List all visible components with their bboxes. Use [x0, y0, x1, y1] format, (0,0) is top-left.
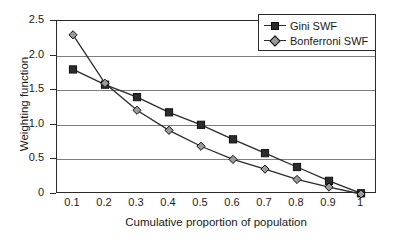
data-point-diamond: [101, 79, 109, 87]
x-axis-tick-label: 0.3: [128, 196, 143, 208]
x-axis-title: Cumulative proportion of population: [56, 216, 376, 228]
legend-label-gini: Gini SWF: [290, 20, 337, 32]
data-point-diamond: [165, 126, 173, 134]
x-axis-tick-label: 0.9: [320, 196, 335, 208]
data-point-diamond: [261, 165, 269, 173]
legend-entry-gini: Gini SWF: [264, 18, 375, 33]
legend-entry-bonferroni: Bonferroni SWF: [264, 33, 375, 48]
data-point-diamond: [197, 142, 205, 150]
data-point-diamond: [293, 175, 301, 183]
diamond-marker-icon: [269, 35, 280, 46]
chart-figure: 00.51.01.52.02.5 Weighting function 0.10…: [0, 0, 395, 244]
x-axis-tick-label: 0.5: [192, 196, 207, 208]
y-axis-tick-mark: [50, 193, 56, 194]
series-line-bonferroni: [73, 35, 361, 194]
data-point-square: [133, 94, 140, 101]
x-axis-tick-label: 0.4: [160, 196, 175, 208]
x-axis-tick-label: 0.8: [288, 196, 303, 208]
gridline: [57, 159, 375, 160]
gridline: [57, 125, 375, 126]
data-point-diamond: [133, 106, 141, 114]
data-point-square: [69, 66, 76, 73]
data-point-square: [229, 136, 236, 143]
x-axis-tick-label: 0.2: [96, 196, 111, 208]
y-axis-title: Weighting function: [18, 14, 30, 194]
data-point-diamond: [69, 31, 77, 39]
data-point-square: [261, 150, 268, 157]
legend-key-diamond: [264, 35, 286, 47]
data-point-diamond: [325, 183, 333, 191]
square-marker-icon: [271, 22, 279, 30]
x-axis-tick-labels: 0.10.20.30.40.50.60.70.80.91: [0, 196, 395, 212]
series-line-gini: [73, 69, 361, 193]
gridline: [57, 90, 375, 91]
legend-label-bonferroni: Bonferroni SWF: [290, 35, 368, 47]
data-point-square: [101, 81, 108, 88]
legend-key-square: [264, 20, 286, 32]
chart-legend: Gini SWF Bonferroni SWF: [258, 14, 376, 51]
data-point-square: [293, 163, 300, 170]
x-axis-tick-label: 0.7: [256, 196, 271, 208]
x-axis-tick-label: 1: [357, 196, 363, 208]
data-point-square: [165, 109, 172, 116]
gridline: [57, 56, 375, 57]
x-axis-tick-label: 0.6: [224, 196, 239, 208]
x-axis-tick-label: 0.1: [64, 196, 79, 208]
data-point-square: [325, 177, 332, 184]
